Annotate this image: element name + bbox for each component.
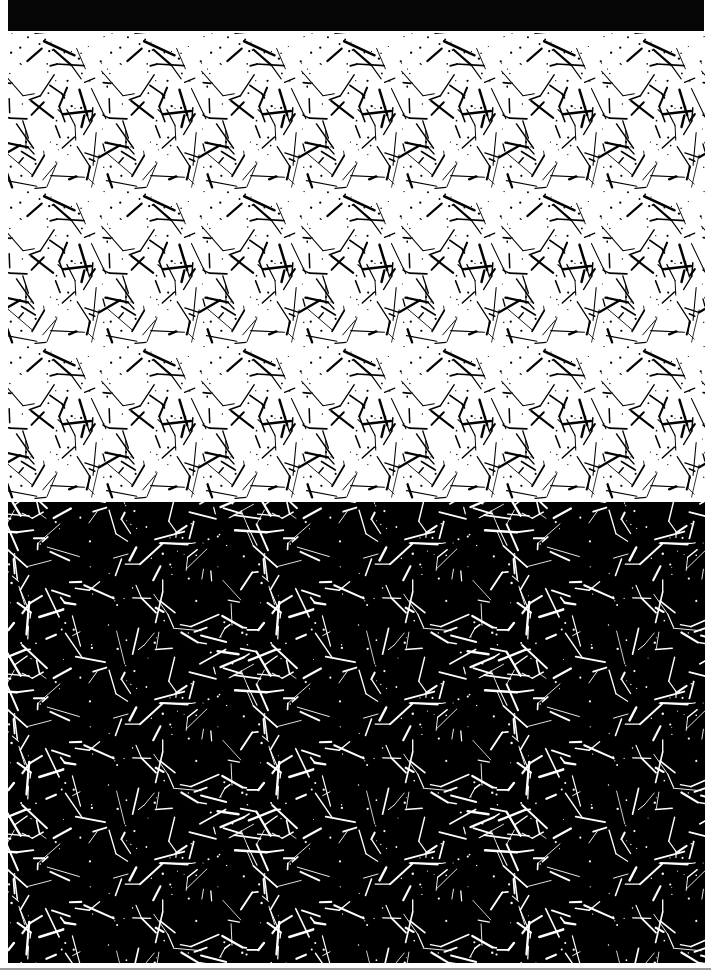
random-line-pattern [8, 502, 705, 963]
divider-rule [0, 968, 711, 970]
header-bar [8, 0, 704, 31]
stereogram-panel-light [8, 33, 705, 499]
stereogram-panel-dark [8, 502, 705, 963]
random-line-pattern [8, 33, 705, 499]
